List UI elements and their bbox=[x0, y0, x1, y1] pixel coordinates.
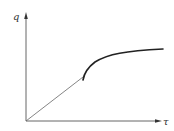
linear-rise-line bbox=[26, 77, 83, 121]
y-axis-label: q bbox=[13, 11, 19, 22]
saturation-curve bbox=[83, 49, 163, 80]
diagram-canvas: q τ bbox=[0, 0, 174, 131]
q-tau-diagram: q τ bbox=[0, 0, 174, 131]
x-axis-arrow-icon bbox=[155, 119, 162, 123]
y-axis-arrow-icon bbox=[24, 12, 28, 19]
x-axis-label: τ bbox=[163, 116, 169, 127]
